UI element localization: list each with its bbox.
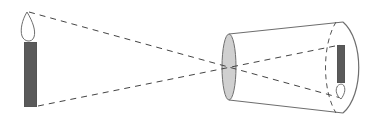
image-candle-body <box>338 46 345 83</box>
object-candle <box>21 12 36 107</box>
camera-back-arc <box>343 22 359 113</box>
ray-top-to-bottom <box>29 12 341 98</box>
candle-body <box>25 43 37 107</box>
pinhole-disk <box>222 34 236 100</box>
light-rays <box>29 12 341 106</box>
image-screen <box>326 22 337 113</box>
flame-icon <box>21 12 34 41</box>
pinhole-camera-diagram <box>0 0 383 129</box>
image-candle <box>336 46 345 100</box>
ray-bottom-to-top <box>38 45 340 106</box>
